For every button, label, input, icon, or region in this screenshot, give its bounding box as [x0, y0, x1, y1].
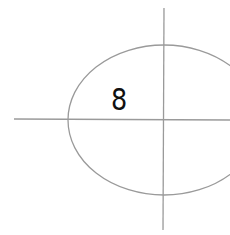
vertical-axis — [163, 8, 164, 230]
diagram-canvas: 8 — [0, 0, 230, 235]
digit-label: 8 — [111, 85, 127, 115]
ellipse-axes-figure — [0, 0, 230, 235]
horizontal-axis — [14, 119, 230, 120]
